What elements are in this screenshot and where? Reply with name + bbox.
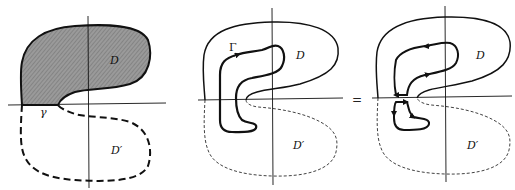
- real-axis: [372, 96, 512, 98]
- label-d-prime: D′: [110, 144, 123, 157]
- region-d-outline: [376, 17, 510, 98]
- region-d-shaded: [21, 25, 150, 105]
- imaginary-axis: [445, 6, 446, 182]
- panel-1: D D′ γ: [8, 16, 166, 188]
- label-d: D: [295, 49, 305, 62]
- equals-operator: =: [352, 93, 362, 107]
- arrow-top-left: [426, 46, 430, 47]
- label-gamma-contour: Γ: [229, 41, 237, 54]
- panel-3: D D′: [372, 6, 512, 182]
- label-d-prime: D′: [466, 139, 479, 152]
- upper-contour: [395, 43, 459, 95]
- label-d: D: [109, 54, 119, 67]
- region-d-prime-dashed: [204, 100, 337, 176]
- region-d-prime-dashed: [377, 98, 510, 174]
- reflection-figure: D D′ γ D D′ Γ =: [0, 0, 515, 190]
- label-d-prime: D′: [292, 139, 305, 152]
- label-d: D: [475, 49, 485, 62]
- panel-2: D D′ Γ: [198, 8, 343, 185]
- imaginary-axis: [272, 8, 273, 185]
- label-gamma: γ: [40, 106, 47, 119]
